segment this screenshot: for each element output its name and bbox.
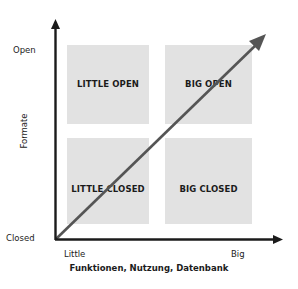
y-axis-tick-closed: Closed — [6, 233, 35, 243]
trend-arrow-icon — [56, 34, 266, 239]
x-axis-tick-big: Big — [231, 249, 245, 259]
x-axis — [55, 235, 283, 244]
x-axis-title: Funktionen, Nutzung, Datenbank — [0, 263, 298, 273]
y-axis — [51, 19, 60, 240]
y-axis-title: Formate — [19, 101, 29, 161]
y-axis-tick-open: Open — [13, 45, 36, 55]
x-axis-tick-little: Little — [64, 249, 85, 259]
quadrant-matrix-diagram: LITTLE OPEN BIG OPEN LITTLE CLOSED BIG C… — [0, 0, 298, 289]
axes-and-arrow-layer — [0, 0, 298, 289]
